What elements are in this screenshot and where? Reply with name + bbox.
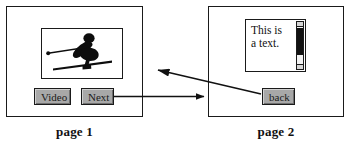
video-preview-box[interactable]: [41, 28, 123, 79]
scroll-down-icon[interactable]: [297, 64, 303, 69]
text-box[interactable]: This is a text.: [245, 19, 306, 72]
scrollbar-thumb[interactable]: [297, 28, 303, 55]
vertical-scrollbar[interactable]: [296, 21, 304, 70]
scroll-up-icon[interactable]: [297, 22, 303, 27]
page-2-caption: page 2: [208, 124, 344, 140]
back-button[interactable]: back: [262, 88, 295, 105]
page-1-caption: page 1: [6, 124, 143, 140]
page-1-frame: [6, 6, 143, 117]
text-box-content: This is a text.: [246, 20, 296, 71]
next-button[interactable]: Next: [81, 88, 114, 105]
video-button[interactable]: Video: [34, 88, 71, 105]
skier-icon: [42, 29, 122, 78]
diagram-canvas: Video Next page 1 This is a text. back p…: [0, 0, 351, 151]
